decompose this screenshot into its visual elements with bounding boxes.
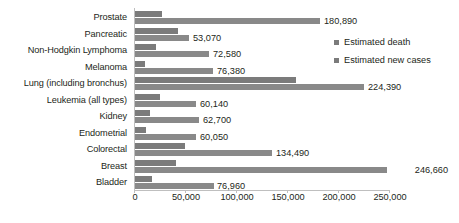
y-axis-label-endometrial: Endometrial <box>0 128 127 138</box>
y-axis-label-leukemia: Leukemia (all types) <box>0 95 127 105</box>
bar-new-cases-bladder <box>135 183 214 189</box>
y-axis-label-colorectal: Colorectal <box>0 144 127 154</box>
y-axis-label-pancreatic: Pancreatic <box>0 29 127 39</box>
legend-swatch-icon-estimated-death <box>334 40 339 45</box>
data-label-bladder: 76,960 <box>217 181 245 191</box>
bar-new-cases-colorectal <box>135 150 272 156</box>
y-axis-label-melanoma: Melanoma <box>0 62 127 72</box>
legend-swatch-icon-estimated-new-cases <box>334 58 339 63</box>
bar-new-cases-lung <box>135 84 364 90</box>
x-axis-line <box>134 190 390 191</box>
bar-death-endometrial <box>135 127 146 133</box>
bar-new-cases-non-hodgkin-lymphoma <box>135 51 209 57</box>
bar-death-pancreatic <box>135 28 178 34</box>
y-axis-label-bladder: Bladder <box>0 177 127 187</box>
data-label-non-hodgkin-lymphoma: 72,580 <box>213 49 241 59</box>
bar-new-cases-prostate <box>135 18 320 24</box>
x-axis-tick-label-150000: 150,000 <box>271 192 304 203</box>
y-axis-label-prostate: Prostate <box>0 12 127 22</box>
bar-death-prostate <box>135 11 162 17</box>
legend-item-estimated-new-cases[interactable]: Estimated new cases <box>334 51 459 69</box>
bar-death-non-hodgkin-lymphoma <box>135 44 156 50</box>
bar-new-cases-pancreatic <box>135 35 189 41</box>
data-label-breast: 246,660 <box>415 165 448 175</box>
data-label-prostate: 180,890 <box>324 16 357 26</box>
data-label-melanoma: 76,380 <box>217 66 245 76</box>
y-axis-label-breast: Breast <box>0 161 127 171</box>
x-axis-tick-label-200000: 200,000 <box>322 192 355 203</box>
data-label-lung: 224,390 <box>368 82 401 92</box>
bar-death-colorectal <box>135 143 185 149</box>
x-axis-tick-label-250000: 250,000 <box>373 192 406 203</box>
x-axis-tick-labels: 0 50,000 100,000 150,000 200,000 250,000 <box>135 192 455 206</box>
bar-new-cases-kidney <box>135 117 199 123</box>
bar-death-melanoma <box>135 61 145 67</box>
legend-item-estimated-death[interactable]: Estimated death <box>334 33 459 51</box>
y-axis-label-non-hodgkin-lymphoma: Non-Hodgkin Lymphoma <box>0 45 127 55</box>
bar-new-cases-breast <box>135 167 387 173</box>
chart-legend: Estimated death Estimated new cases <box>334 33 459 69</box>
x-axis-tick-label-100000: 100,000 <box>220 192 253 203</box>
y-axis-label-lung: Lung (including bronchus) <box>0 78 127 88</box>
bar-death-lung <box>135 77 296 83</box>
x-axis-tick-label-0: 0 <box>132 192 137 203</box>
x-axis-tick-label-50000: 50,000 <box>172 192 200 203</box>
data-label-endometrial: 60,050 <box>200 132 228 142</box>
bar-new-cases-leukemia <box>135 101 196 107</box>
data-label-pancreatic: 53,070 <box>193 33 221 43</box>
y-axis-category-labels: Prostate Pancreatic Non-Hodgkin Lymphoma… <box>0 8 131 190</box>
bar-death-breast <box>135 160 176 166</box>
bar-death-bladder <box>135 176 152 182</box>
bar-death-leukemia <box>135 94 160 100</box>
bar-new-cases-melanoma <box>135 68 213 74</box>
legend-label-estimated-death: Estimated death <box>344 37 410 47</box>
y-axis-label-kidney: Kidney <box>0 111 127 121</box>
data-label-colorectal: 134,490 <box>276 148 309 158</box>
data-label-kidney: 62,700 <box>203 115 231 125</box>
bar-chart: Prostate Pancreatic Non-Hodgkin Lymphoma… <box>0 0 459 223</box>
bar-new-cases-endometrial <box>135 134 196 140</box>
legend-label-estimated-new-cases: Estimated new cases <box>344 55 431 65</box>
bar-death-kidney <box>135 110 150 116</box>
data-label-leukemia: 60,140 <box>200 99 228 109</box>
